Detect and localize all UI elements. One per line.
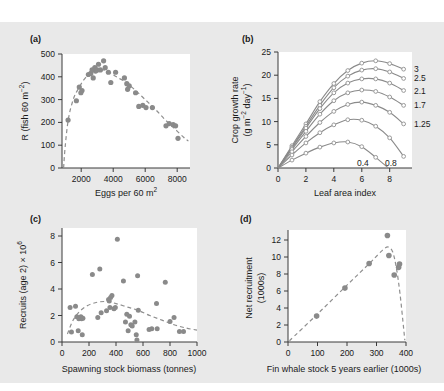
legend-label-2.5: 2.5	[414, 73, 426, 83]
curve-marker	[374, 67, 378, 71]
panel-c: (c) 8 6 4 2 0	[0, 196, 222, 383]
curve-marker	[374, 77, 378, 81]
curve-marker	[290, 153, 294, 157]
panel-c-ytick-2: 2	[50, 311, 55, 321]
panel-d-ytick-6: 6	[276, 286, 281, 296]
panel-d-xtick-200: 200	[340, 348, 354, 358]
panel-d-tag: (d)	[240, 214, 252, 224]
data-point	[113, 305, 118, 310]
data-point	[134, 332, 139, 337]
curve-marker	[332, 123, 336, 127]
panel-a-chart: 500 400 300 200 100 0 2000 4000 6000 800…	[0, 22, 222, 196]
curve-marker	[318, 107, 322, 111]
curve-marker	[374, 155, 378, 159]
curve-marker	[346, 74, 350, 78]
top-margin-strip	[0, 0, 444, 22]
curve-marker	[346, 69, 350, 73]
panel-b-yaxis-label-line1: Crop growth rate	[230, 76, 240, 143]
panel-d-xtick-100: 100	[310, 348, 324, 358]
curve-marker	[360, 77, 364, 81]
curve-marker	[388, 110, 392, 114]
data-point	[155, 326, 160, 331]
panel-d-xaxis-label: Fin whale stock 5 years earlier (1000s)	[267, 364, 422, 374]
curve-marker	[388, 95, 392, 99]
curve-marker	[388, 70, 392, 74]
curve-marker	[318, 145, 322, 149]
data-point	[172, 315, 177, 320]
panel-c-chart: 8 6 4 2 0 0 200 400 600 800 1000	[0, 196, 222, 383]
curve-marker	[360, 68, 364, 72]
data-point	[150, 105, 155, 110]
data-point	[99, 310, 104, 315]
panel-d-ytick-10: 10	[272, 252, 282, 262]
data-point	[127, 314, 132, 319]
panel-b-ytick-15: 15	[262, 93, 272, 103]
panel-b-yaxis-label-line2: (g m−2 day−1)	[240, 84, 252, 137]
data-point	[391, 272, 397, 278]
curve-marker	[346, 140, 350, 144]
data-point	[123, 320, 128, 325]
curve-marker	[304, 141, 308, 145]
panel-a-ytick-0: 0	[50, 163, 55, 173]
panel-a-yticks: 500 400 300 200 100 0	[41, 49, 62, 173]
curve-marker	[346, 81, 350, 85]
curve-marker	[360, 88, 364, 92]
curve-marker	[304, 135, 308, 139]
data-point	[122, 75, 127, 80]
panel-b-xtick-0: 0	[276, 174, 281, 184]
data-point	[79, 88, 84, 93]
legend-label-0.4: 0.4	[357, 158, 369, 168]
data-point	[98, 67, 103, 72]
panel-d-chart: 12 10 8 6 4 2 0 0 100 200 300 400	[222, 196, 444, 383]
panel-d-ytick-0: 0	[276, 337, 281, 347]
panel-c-yaxis-label: Recruits (age 2) × 106	[16, 241, 28, 329]
curve-marker	[402, 103, 406, 107]
panel-b-yticks: 25 20 15 10 5 0	[262, 47, 278, 173]
curve-marker	[360, 118, 364, 122]
panel-b-ytick-10: 10	[262, 117, 272, 127]
panel-b-xtick-6: 6	[359, 174, 364, 184]
curve-marker	[374, 103, 378, 107]
data-point	[149, 326, 154, 331]
panel-a-xtick-2000: 2000	[72, 174, 91, 184]
panel-c-xtick-1000: 1000	[188, 348, 207, 358]
panel-a-ytick-400: 400	[41, 72, 55, 82]
legend-label-0.8: 0.8	[385, 158, 397, 168]
curve-marker	[304, 129, 308, 133]
data-point	[181, 329, 186, 334]
data-point	[175, 136, 180, 141]
panel-c-xticks: 0 200 400 600 800 1000	[60, 342, 207, 358]
panel-c-xtick-0: 0	[60, 348, 65, 358]
curve-marker	[332, 109, 336, 113]
panel-a-ytick-100: 100	[41, 140, 55, 150]
data-point	[74, 98, 79, 103]
data-point	[173, 123, 178, 128]
data-point	[163, 280, 168, 285]
panel-d-yticks: 12 10 8 6 4 2 0	[272, 235, 288, 347]
data-point	[69, 330, 74, 335]
panel-b-tag: (b)	[242, 34, 254, 44]
curve-marker	[332, 82, 336, 86]
curve-marker	[360, 100, 364, 104]
figure-canvas: (a) 500 400 300 200 100 0	[0, 0, 444, 391]
panel-a-xticks: 2000 4000 6000 8000	[72, 168, 187, 184]
panel-d-ytick-8: 8	[276, 269, 281, 279]
data-point	[366, 261, 372, 267]
curve-marker	[318, 121, 322, 125]
data-point	[95, 315, 100, 320]
panel-a-xtick-8000: 8000	[168, 174, 187, 184]
data-point	[136, 308, 141, 313]
panel-a-ytick-300: 300	[41, 95, 55, 105]
curve-marker	[388, 62, 392, 66]
curve-marker	[388, 136, 392, 140]
data-point	[134, 338, 139, 343]
panel-d-xtick-0: 0	[286, 348, 291, 358]
panel-c-ytick-0: 0	[50, 337, 55, 347]
curve-marker	[346, 91, 350, 95]
data-point	[65, 118, 70, 123]
data-point	[342, 285, 348, 291]
data-point	[76, 328, 81, 333]
data-point	[135, 273, 140, 278]
panel-d-xtick-400: 400	[399, 348, 413, 358]
panel-a-xtick-4000: 4000	[104, 174, 123, 184]
